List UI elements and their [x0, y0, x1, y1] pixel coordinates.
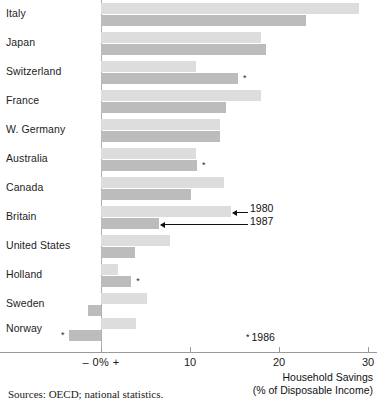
bar-italy-1980	[101, 3, 359, 14]
bar-italy-1987	[101, 15, 306, 26]
x-tick-20	[279, 347, 280, 353]
bar-norway-1980	[101, 318, 136, 329]
bar-sweden-1980	[101, 293, 147, 304]
x-axis-title-line1: Household Savings	[253, 371, 373, 384]
bar-sweden-1987	[88, 305, 101, 316]
bar-australia-1987	[101, 160, 197, 171]
annotation-1987-label: 1987	[250, 216, 273, 227]
bar-w-germany-1987	[101, 131, 220, 142]
x-tick-label-20: 20	[273, 356, 285, 369]
bar-holland-1980	[101, 264, 118, 275]
bar-chart: Italy Japan Switzerland France W. German…	[0, 0, 377, 407]
x-tick-label-30: 30	[362, 356, 374, 369]
bar-switzerland-1987	[101, 73, 238, 84]
asterisk-icon: *	[243, 74, 247, 83]
x-axis-title: Household Savings (% of Disposable Incom…	[253, 371, 373, 396]
asterisk-icon: *	[246, 332, 250, 342]
plot-area: ****	[0, 0, 377, 352]
bar-japan-1987	[101, 44, 266, 55]
source-note: Sources: OECD; national statistics.	[8, 388, 163, 401]
bar-united-states-1987	[101, 247, 135, 258]
bar-switzerland-1980	[101, 61, 196, 72]
bar-australia-1980	[101, 148, 196, 159]
bar-france-1980	[101, 90, 261, 101]
bar-britain-1980	[101, 206, 231, 217]
asterisk-icon: *	[61, 331, 65, 340]
x-tick-label-0: – 0% +	[83, 356, 120, 369]
bar-france-1987	[101, 102, 226, 113]
annotation-1980-label: 1980	[250, 203, 273, 214]
x-tick-10	[190, 347, 191, 353]
bar-britain-1987	[101, 218, 159, 229]
bar-w-germany-1980	[101, 119, 220, 130]
footnote-1986-label: 1986	[252, 331, 275, 343]
x-tick-30	[368, 347, 369, 353]
bar-japan-1980	[101, 32, 261, 43]
x-axis-line	[0, 352, 377, 353]
x-tick-label-10: 10	[184, 356, 196, 369]
annotation-1987-arrow	[161, 224, 248, 225]
bar-canada-1980	[101, 177, 224, 188]
x-axis-title-line2: (% of Disposable Income)	[253, 384, 373, 397]
footnote-1986: *1986	[246, 331, 275, 343]
bar-united-states-1980	[101, 235, 170, 246]
asterisk-icon: *	[202, 161, 206, 170]
annotation-1980-arrow	[233, 212, 248, 213]
x-tick-0	[101, 347, 102, 353]
asterisk-icon: *	[136, 277, 140, 286]
bar-canada-1987	[101, 189, 191, 200]
bar-norway-1987	[69, 330, 101, 341]
bar-holland-1987	[101, 276, 131, 287]
